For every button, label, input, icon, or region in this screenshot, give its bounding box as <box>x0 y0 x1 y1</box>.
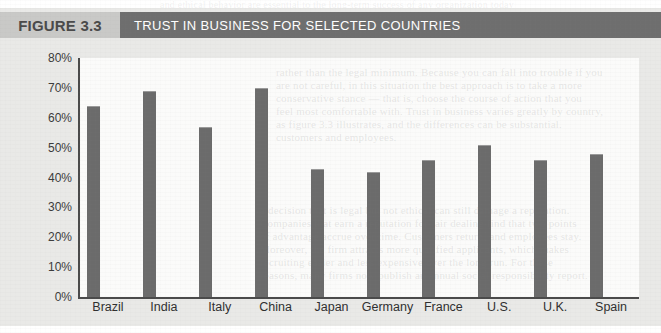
bar <box>478 145 491 297</box>
x-axis-category-label: Japan <box>315 300 349 314</box>
figure-header: FIGURE 3.3 TRUST IN BUSINESS FOR SELECTE… <box>0 12 661 38</box>
figure-number-box: FIGURE 3.3 <box>0 12 120 38</box>
bar <box>255 88 268 297</box>
x-axis-category-label: Italy <box>208 300 231 314</box>
figure-number-label: FIGURE 3.3 <box>18 17 102 34</box>
bar-group <box>415 58 471 297</box>
y-axis-tick-label: 70% <box>48 81 72 95</box>
bar-group <box>136 58 192 297</box>
page-bleed-top: and ethical behavior are essential to th… <box>0 0 661 8</box>
x-axis-category-label: Spain <box>595 300 627 314</box>
bar <box>199 127 212 297</box>
bar-group <box>80 58 136 297</box>
bar-group <box>304 58 360 297</box>
bar <box>590 154 603 297</box>
bar <box>143 91 156 297</box>
plot-area: rather than the legal minimum. Because y… <box>80 58 639 297</box>
y-axis-tick-label: 10% <box>48 260 72 274</box>
y-axis-tick-label: 20% <box>48 230 72 244</box>
ghost-line-top: and ethical behavior are essential to th… <box>160 0 514 8</box>
bar <box>311 169 324 297</box>
x-axis-category-label: India <box>150 300 177 314</box>
bar-group <box>527 58 583 297</box>
figure-title-bar: TRUST IN BUSINESS FOR SELECTED COUNTRIES <box>120 12 661 38</box>
figure-title-text: TRUST IN BUSINESS FOR SELECTED COUNTRIES <box>134 18 461 33</box>
bar <box>422 160 435 297</box>
x-axis-category-label: Germany <box>362 300 413 314</box>
bar <box>534 160 547 297</box>
x-axis-category-label: France <box>424 300 463 314</box>
y-axis-tick-label: 80% <box>48 51 72 65</box>
bar <box>87 106 100 297</box>
x-axis-category-labels: BrazilIndiaItalyChinaJapanGermanyFranceU… <box>80 300 639 322</box>
bar-group <box>471 58 527 297</box>
figure-container: FIGURE 3.3 TRUST IN BUSINESS FOR SELECTE… <box>0 8 661 326</box>
y-axis-tick-label: 30% <box>48 200 72 214</box>
bar <box>367 172 380 297</box>
bar-group <box>583 58 639 297</box>
chart-body: 0%10%20%30%40%50%60%70%80% rather than t… <box>0 38 661 326</box>
x-axis-category-label: Brazil <box>92 300 123 314</box>
x-axis-category-label: U.S. <box>487 300 511 314</box>
y-axis-tick-labels: 0%10%20%30%40%50%60%70%80% <box>20 58 72 297</box>
y-axis-tick-label: 60% <box>48 111 72 125</box>
bar-group <box>248 58 304 297</box>
y-axis-tick-label: 0% <box>55 290 72 304</box>
plot-frame: rather than the legal minimum. Because y… <box>78 58 639 299</box>
y-axis-tick-label: 50% <box>48 141 72 155</box>
bar-group <box>360 58 416 297</box>
y-axis-tick-label: 40% <box>48 171 72 185</box>
x-axis-category-label: China <box>259 300 292 314</box>
bar-group <box>192 58 248 297</box>
x-axis-category-label: U.K. <box>543 300 567 314</box>
